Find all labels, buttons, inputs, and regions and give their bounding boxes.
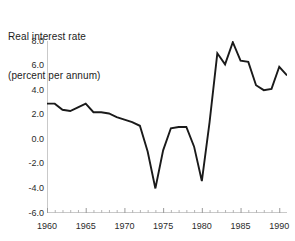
axis-lines — [47, 41, 287, 213]
chart-container: Real interest rate (percent per annum) 8… — [0, 0, 295, 241]
x-axis-tick-label: 1980 — [182, 222, 222, 231]
data-series-line — [47, 42, 287, 188]
x-axis-tick-label: 1965 — [66, 222, 106, 231]
x-axis-tick-label: 1990 — [259, 222, 295, 231]
plot-area — [47, 41, 287, 213]
x-axis-tick-label: 1960 — [27, 222, 67, 231]
x-axis-tick-label: 1970 — [104, 222, 144, 231]
line-chart-svg — [47, 41, 287, 213]
x-axis-tick-label: 1985 — [221, 222, 261, 231]
x-axis-tick-label: 1975 — [143, 222, 183, 231]
